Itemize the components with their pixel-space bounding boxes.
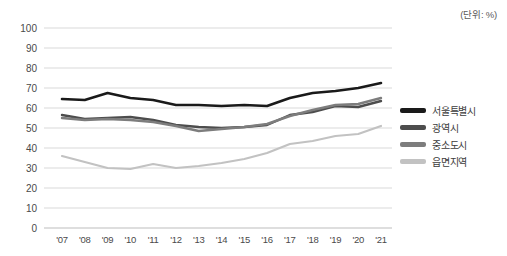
x-axis-tick-label: '16 — [261, 234, 272, 245]
legend-swatch-icon — [400, 108, 426, 113]
y-axis-tick-label: 30 — [26, 163, 38, 174]
x-axis-tick-label: '18 — [307, 234, 318, 245]
y-axis-tick-label: 70 — [26, 83, 38, 94]
legend-swatch-icon — [400, 125, 426, 130]
x-axis-tick-label: '10 — [125, 234, 136, 245]
x-axis-tick-label: '21 — [375, 234, 386, 245]
y-axis-tick-label: 10 — [26, 203, 38, 214]
x-axis-tick-label: '19 — [330, 234, 341, 245]
x-axis-tick-label: '15 — [239, 234, 250, 245]
legend-item[interactable]: 서울특별시 — [400, 102, 504, 119]
series-line-읍면지역 — [62, 126, 381, 169]
x-axis-tick-label: '11 — [148, 234, 159, 245]
y-axis-tick-label: 20 — [26, 183, 38, 194]
y-axis-tick-labels: 0102030405060708090100 — [20, 23, 37, 234]
y-axis-tick-label: 50 — [26, 123, 38, 134]
x-axis-tick-label: '14 — [216, 234, 227, 245]
y-axis-tick-label: 90 — [26, 43, 38, 54]
series-line-중소도시 — [62, 98, 381, 131]
legend-item-label: 읍면지역 — [432, 154, 467, 169]
x-axis-tick-label: '17 — [284, 234, 295, 245]
x-axis-tick-label: '09 — [102, 234, 113, 245]
legend-item-label: 서울특별시 — [432, 103, 476, 118]
x-axis-tick-labels: '07'08'09'10'11'12'13'14'15'16'17'18'19'… — [56, 234, 386, 245]
y-axis-tick-label: 100 — [20, 23, 37, 34]
legend-item-label: 중소도시 — [432, 137, 467, 152]
y-axis-tick-label: 0 — [31, 223, 37, 234]
legend-swatch-icon — [400, 159, 426, 164]
x-axis-tick-label: '07 — [56, 234, 67, 245]
legend-swatch-icon — [400, 142, 426, 147]
x-axis-tick-label: '20 — [352, 234, 363, 245]
chart-legend: 서울특별시광역시중소도시읍면지역 — [400, 102, 504, 170]
y-axis-tick-label: 40 — [26, 143, 38, 154]
data-series-group — [62, 83, 381, 169]
y-axis-tick-label: 60 — [26, 103, 38, 114]
chart-container: (단위: %) 0102030405060708090100 '07'08'09… — [0, 0, 507, 256]
y-axis-tick-label: 80 — [26, 63, 38, 74]
legend-item[interactable]: 읍면지역 — [400, 153, 504, 170]
legend-item[interactable]: 광역시 — [400, 119, 504, 136]
x-axis-tick-label: '13 — [193, 234, 204, 245]
x-axis-tick-label: '08 — [79, 234, 90, 245]
x-axis-tick-label: '12 — [170, 234, 181, 245]
legend-item[interactable]: 중소도시 — [400, 136, 504, 153]
legend-item-label: 광역시 — [432, 120, 458, 135]
series-line-서울특별시 — [62, 83, 381, 106]
